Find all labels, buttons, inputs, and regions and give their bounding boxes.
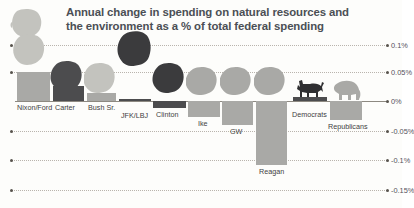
bar-label-gw: GW [230,127,242,136]
gridline-dot-right-neg0.05 [386,130,389,133]
bar-carter[interactable] [53,86,84,101]
gridline-dot-left-neg0.15 [10,189,13,192]
bar-clinton[interactable] [153,101,186,108]
axis-label-neg0.05: -0.05% [391,127,414,136]
bar-republicans[interactable] [330,101,362,120]
bar-label-jfk-lbj: JFK/LBJ [121,111,148,120]
bar-label-nixon-ford: Nixon/Ford [17,103,52,112]
axis-label-0: 0% [391,97,402,106]
bar-label-democrats: Democrats [292,110,327,119]
bar-democrats[interactable] [293,97,327,101]
bar-label-republicans: Republicans [328,122,368,131]
gridline-dot-right-0.1 [386,44,389,47]
chart-title: Annual change in spending on natural res… [66,6,366,33]
bar-label-carter: Carter [55,103,75,112]
bar-label-clinton: Clinton [156,110,178,119]
bar-bush-sr[interactable] [87,93,116,101]
bar-gw[interactable] [222,101,253,125]
gridline-neg0.1 [12,160,387,161]
gridline-dot-left-0.05 [10,71,13,74]
gridline-neg0.05 [12,131,387,132]
chart-title-line-1: Annual change in spending on natural res… [66,6,349,18]
axis-label-0.05: 0.05% [391,68,412,77]
gridline-neg0.15 [12,190,387,191]
axis-label-neg0.1: -0.1% [391,156,410,165]
president-silhouette-bush-sr [84,62,117,93]
president-silhouette-ike [186,66,219,95]
gridline-dot-right-0 [386,100,389,103]
bar-reagan[interactable] [256,101,287,165]
president-silhouette-nixon-ford [12,33,46,65]
axis-label-neg0.15: -0.15% [391,186,414,195]
gridline-0.1 [12,45,387,46]
axis-label-0.1: 0.1% [391,41,408,50]
president-silhouette-reagan [254,66,287,95]
gridline-dot-right-neg0.15 [386,189,389,192]
gridline-dot-right-0.05 [386,71,389,74]
bar-label-bush-sr: Bush Sr. [88,103,115,112]
gridline-dot-left-neg0.05 [10,130,13,133]
gridline-dot-left-neg0.1 [10,159,13,162]
president-silhouette-jfk-lbj [117,30,153,66]
gridline-dot-right-neg0.1 [386,159,389,162]
bar-ike[interactable] [188,101,220,117]
bar-label-reagan: Reagan [259,167,284,176]
bar-label-ike: Ike [198,119,208,128]
president-silhouette-gw [220,66,253,95]
president-silhouette-clinton [152,62,186,93]
chart-title-line-2: the environment as a % of total federal … [66,20,324,32]
bar-jfk-lbj[interactable] [119,99,151,101]
bar-nixon-ford[interactable] [17,72,50,101]
